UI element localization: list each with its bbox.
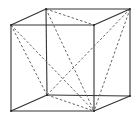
diagonal-back_top_left-front_top_right — [46, 9, 94, 25]
vertex-back_top_left — [45, 8, 47, 10]
edge-front_bottom_right-back_bottom_right — [94, 96, 130, 111]
vertex-front_top_left — [10, 24, 12, 26]
vertex-back_top_right — [129, 8, 131, 10]
edge-front_top_left-back_top_left — [11, 9, 46, 25]
vertex-front_bottom_right — [93, 110, 95, 112]
vertex-front_bottom_left — [10, 110, 12, 112]
diagonal-back_top_right-back_bottom_left — [47, 9, 130, 95]
edge-back_bottom_right-back_bottom_left — [47, 95, 130, 96]
diagonal-front_top_left-back_bottom_left — [11, 25, 47, 95]
vertex-back_bottom_right — [129, 95, 131, 97]
edge-front_bottom_left-back_bottom_left — [11, 95, 47, 111]
edge-front_top_right-back_top_right — [94, 9, 130, 25]
vertex-front_top_right — [93, 24, 95, 26]
cube-diagram — [0, 0, 140, 116]
diagonal-front_top_left-front_bottom_right — [11, 25, 94, 111]
edge-back_bottom_left-back_top_left — [46, 9, 47, 95]
vertex-back_bottom_left — [46, 94, 48, 96]
cube-vertices — [10, 8, 131, 112]
